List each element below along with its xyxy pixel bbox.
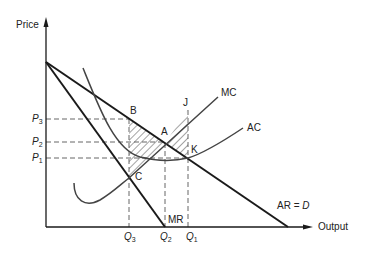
monopoly-diagram xyxy=(0,0,371,254)
q1-label: Q1 xyxy=(186,232,198,242)
ac-label: AC xyxy=(247,123,261,133)
point-j-label: J xyxy=(183,98,188,108)
point-b-label: B xyxy=(130,106,137,116)
p3-label: P3 xyxy=(32,114,43,124)
x-axis-label: Output xyxy=(318,222,348,232)
x-axis-arrow-icon xyxy=(303,225,313,230)
point-a-label: A xyxy=(161,127,168,137)
deadweight-triangle-bac xyxy=(129,119,165,178)
q2-label: Q2 xyxy=(160,232,172,242)
p2-label: P2 xyxy=(32,137,43,147)
ar-d-label: AR = D xyxy=(277,201,310,211)
point-k-label: K xyxy=(191,145,198,155)
q3-label: Q3 xyxy=(124,232,136,242)
y-axis-label: Price xyxy=(16,20,39,30)
p1-label: P1 xyxy=(32,153,43,163)
point-c-label: C xyxy=(135,172,142,182)
mr-label: MR xyxy=(168,215,184,225)
mc-label: MC xyxy=(221,88,237,98)
y-axis-arrow-icon xyxy=(44,17,49,27)
